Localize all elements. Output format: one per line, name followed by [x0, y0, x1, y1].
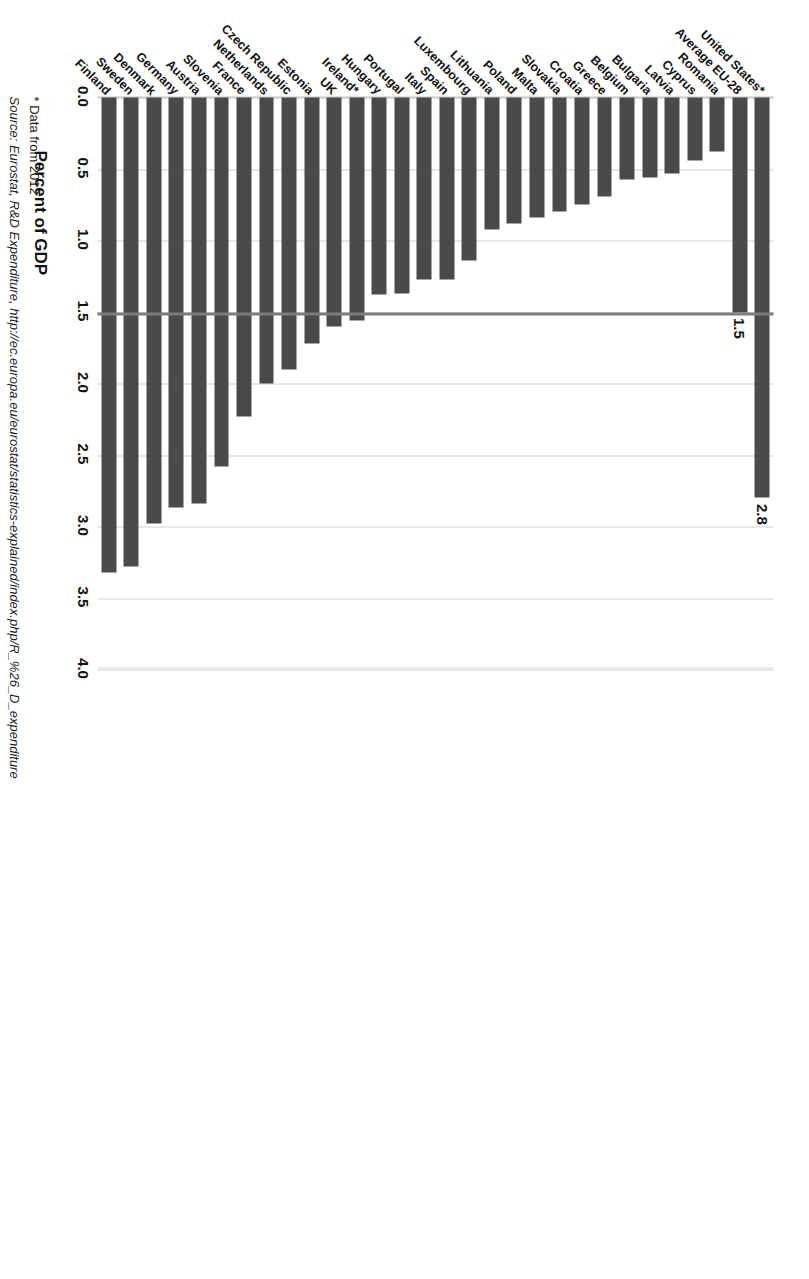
bar-row	[597, 97, 612, 667]
bar	[259, 97, 274, 383]
bar	[461, 97, 476, 260]
bar-row	[371, 97, 386, 667]
bar-row	[461, 97, 476, 667]
bar-row	[168, 97, 183, 667]
category-axis-labels: FinlandSwedenDenmarkGermanyAustriaSloven…	[97, 0, 809, 96]
bar-row	[349, 97, 364, 667]
footnotes-block: * Data from 2012 Source: Eurostat, R&D E…	[4, 96, 43, 796]
bar-row	[484, 97, 499, 667]
bar-row	[146, 97, 161, 667]
bar-row	[191, 97, 206, 667]
bar	[529, 97, 544, 217]
bar	[349, 97, 364, 320]
bar	[619, 97, 634, 179]
bar-row	[123, 97, 138, 667]
bar	[664, 97, 679, 173]
axis-tick-label: 0.0	[74, 86, 91, 107]
bar-row	[529, 97, 544, 667]
bar	[642, 97, 657, 177]
rotated-figure-stage: FinlandSwedenDenmarkGermanyAustriaSloven…	[0, 0, 809, 1279]
bar-row	[281, 97, 296, 667]
bar	[281, 97, 296, 369]
bar-row	[326, 97, 341, 667]
footnote-data-year: * Data from 2012	[24, 96, 44, 796]
bar	[371, 97, 386, 294]
bar-row	[732, 97, 747, 667]
plot-area: 1.52.8	[97, 96, 773, 668]
bar	[123, 97, 138, 566]
bar	[326, 97, 341, 326]
bar	[574, 97, 589, 204]
bar-row	[642, 97, 657, 667]
bar-row	[101, 97, 116, 667]
bar	[191, 97, 206, 503]
bar-row	[664, 97, 679, 667]
axis-tick-label: 0.5	[74, 157, 91, 178]
axis-tick-label: 4.0	[74, 658, 91, 679]
bar-row	[439, 97, 454, 667]
bar	[236, 97, 251, 416]
bar	[394, 97, 409, 293]
bar-row	[687, 97, 702, 667]
bar-value-label: 2.8	[753, 503, 770, 524]
bar	[101, 97, 116, 572]
axis-tick-label: 3.0	[74, 515, 91, 536]
bar-row	[619, 97, 634, 667]
bar-row	[574, 97, 589, 667]
bar-row	[394, 97, 409, 667]
bar	[416, 97, 431, 279]
bar-row	[236, 97, 251, 667]
bar	[304, 97, 319, 343]
bar	[214, 97, 229, 466]
bar-row	[552, 97, 567, 667]
gridline	[97, 669, 773, 670]
bar-row	[304, 97, 319, 667]
bar	[506, 97, 521, 223]
axis-tick-label: 3.5	[74, 586, 91, 607]
bar	[597, 97, 612, 196]
bar-row	[709, 97, 724, 667]
bar-row	[259, 97, 274, 667]
value-axis-ticks: 0.00.51.01.52.02.53.03.54.0	[57, 96, 97, 668]
bar	[439, 97, 454, 279]
eu28-reference-line	[97, 312, 773, 315]
bar	[146, 97, 161, 523]
axis-tick-label: 2.5	[74, 443, 91, 464]
bar	[687, 97, 702, 160]
bar	[484, 97, 499, 229]
bar	[709, 97, 724, 151]
bar-chart-figure: FinlandSwedenDenmarkGermanyAustriaSloven…	[0, 0, 809, 1279]
bar-row	[506, 97, 521, 667]
axis-tick-label: 1.5	[74, 300, 91, 321]
bar-value-label: 1.5	[731, 318, 748, 339]
bar-row	[754, 97, 769, 667]
footnote-source: Source: Eurostat, R&D Expenditure, http:…	[4, 96, 24, 796]
bar-row	[214, 97, 229, 667]
axis-tick-label: 1.0	[74, 229, 91, 250]
bar	[552, 97, 567, 211]
bar-series: 1.52.8	[97, 97, 773, 667]
axis-tick-label: 2.0	[74, 372, 91, 393]
bar	[732, 97, 747, 312]
bar	[754, 97, 769, 497]
bar	[168, 97, 183, 507]
bar-row	[416, 97, 431, 667]
